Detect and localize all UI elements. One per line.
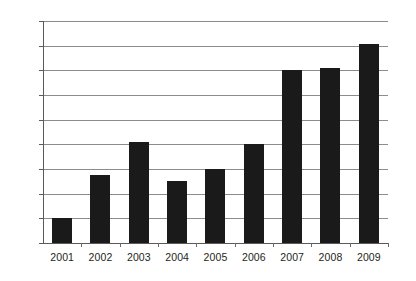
x-axis-category-label: 2007 xyxy=(273,252,311,263)
x-axis-category-label: 2002 xyxy=(81,252,119,263)
x-axis-tick xyxy=(388,243,389,247)
bar-slot xyxy=(43,21,81,243)
x-axis-tick xyxy=(158,243,159,247)
bar-series xyxy=(43,21,388,243)
x-axis-category-label: 2004 xyxy=(158,252,196,263)
x-axis-tick xyxy=(196,243,197,247)
x-axis-tick xyxy=(311,243,312,247)
x-axis-category-label: 2005 xyxy=(196,252,234,263)
x-axis-category-label: 2001 xyxy=(43,252,81,263)
bar-slot xyxy=(120,21,158,243)
bar-2009 xyxy=(359,44,379,243)
x-axis-tick xyxy=(235,243,236,247)
bar-slot xyxy=(350,21,388,243)
bar-2007 xyxy=(282,70,302,243)
bar-2003 xyxy=(129,142,149,243)
x-axis-tick xyxy=(273,243,274,247)
bar-slot xyxy=(273,21,311,243)
bar-2006 xyxy=(244,144,264,243)
bar-slot xyxy=(196,21,234,243)
bar-2001 xyxy=(52,218,72,243)
bar-slot xyxy=(158,21,196,243)
x-axis-category-label: 2006 xyxy=(235,252,273,263)
x-axis-baseline xyxy=(43,243,388,244)
x-axis-tick xyxy=(350,243,351,247)
bar-slot xyxy=(81,21,119,243)
bar-2004 xyxy=(167,181,187,243)
bar-slot xyxy=(311,21,349,243)
bar-2008 xyxy=(320,68,340,243)
x-axis-category-label: 2009 xyxy=(350,252,388,263)
x-axis-category-label: 2008 xyxy=(311,252,349,263)
bar-2005 xyxy=(205,169,225,243)
bar-slot xyxy=(235,21,273,243)
bar-2002 xyxy=(90,175,110,243)
bar-chart: 900 800 700 600 500 400 300 200 100 0 xyxy=(0,0,416,281)
y-tick-0 xyxy=(39,243,43,244)
x-axis-tick xyxy=(120,243,121,247)
x-axis-tick xyxy=(81,243,82,247)
x-axis-category-label: 2003 xyxy=(120,252,158,263)
